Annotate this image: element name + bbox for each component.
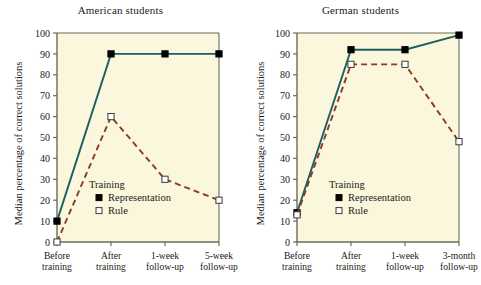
plot-background-american: [57, 33, 219, 242]
x-tick-label-line2-american-1: training: [96, 261, 126, 272]
figure-container: American students Median percentage of c…: [0, 0, 481, 285]
y-tick-label-german-0: 0: [285, 237, 290, 248]
legend-marker-german-1: [336, 208, 342, 214]
y-tick-label-german-70: 70: [280, 90, 290, 101]
y-tick-label-german-30: 30: [280, 174, 290, 185]
legend-label-german-0: Representation: [348, 192, 412, 203]
x-tick-label-american-1: Aftertraining: [96, 250, 126, 272]
legend-label-american-0: Representation: [108, 192, 172, 203]
x-tick-label-line2-german-0: training: [282, 261, 312, 272]
x-tick-label-line2-american-3: follow-up: [200, 261, 238, 272]
data-point-american-1-3: [216, 197, 222, 203]
y-tick-label-american-60: 60: [40, 111, 50, 122]
y-tick-label-american-100: 100: [35, 28, 50, 39]
y-tick-label-american-50: 50: [40, 132, 50, 143]
data-point-american-0-0: [54, 218, 60, 224]
data-point-american-1-2: [162, 176, 168, 182]
y-tick-label-american-0: 0: [45, 237, 50, 248]
chart-panel-german: German students Median percentage of cor…: [240, 0, 481, 285]
legend-label-german-1: Rule: [348, 205, 368, 216]
data-point-american-0-2: [162, 51, 168, 57]
y-tick-label-german-80: 80: [280, 69, 290, 80]
legend-marker-american-0: [96, 195, 102, 201]
chart-panel-american: American students Median percentage of c…: [0, 0, 241, 285]
x-tick-label-line1-german-0: Before: [284, 250, 310, 261]
legend-marker-german-0: [336, 195, 342, 201]
data-point-american-0-3: [216, 51, 222, 57]
data-point-german-0-1: [348, 47, 354, 53]
x-tick-label-american-2: 1-weekfollow-up: [146, 250, 184, 272]
y-tick-label-american-20: 20: [40, 195, 50, 206]
y-tick-label-american-40: 40: [40, 153, 50, 164]
y-tick-label-american-80: 80: [40, 69, 50, 80]
legend-label-american-1: Rule: [108, 205, 128, 216]
x-tick-label-german-2: 1-weekfollow-up: [386, 250, 424, 272]
y-tick-label-german-40: 40: [280, 153, 290, 164]
x-tick-label-line2-american-2: follow-up: [146, 261, 184, 272]
legend-title-american: Training: [89, 179, 126, 190]
data-point-german-0-3: [456, 32, 462, 38]
plot-area-american: 0102030405060708090100BeforetrainingAfte…: [0, 0, 241, 285]
data-point-german-1-1: [348, 61, 354, 67]
plot-area-german: 0102030405060708090100BeforetrainingAfte…: [240, 0, 481, 285]
y-tick-label-german-20: 20: [280, 195, 290, 206]
data-point-german-1-0: [294, 212, 300, 218]
y-tick-label-german-50: 50: [280, 132, 290, 143]
data-point-german-0-2: [402, 47, 408, 53]
x-tick-label-line1-german-2: 1-week: [391, 250, 419, 261]
x-tick-label-line1-german-1: After: [341, 250, 362, 261]
y-tick-label-american-30: 30: [40, 174, 50, 185]
legend-marker-american-1: [96, 208, 102, 214]
y-tick-label-american-90: 90: [40, 49, 50, 60]
x-tick-label-line2-german-3: follow-up: [440, 261, 478, 272]
x-tick-label-german-0: Beforetraining: [282, 250, 312, 272]
x-tick-label-line2-german-1: training: [336, 261, 366, 272]
x-tick-label-american-0: Beforetraining: [42, 250, 72, 272]
legend-title-german: Training: [329, 179, 366, 190]
x-tick-label-line1-american-1: After: [101, 250, 122, 261]
y-tick-label-american-10: 10: [40, 216, 50, 227]
x-tick-label-line1-german-3: 3-month: [443, 250, 476, 261]
data-point-american-1-1: [108, 114, 114, 120]
x-tick-label-line1-american-0: Before: [44, 250, 70, 261]
x-tick-label-german-3: 3-monthfollow-up: [440, 250, 478, 272]
data-point-american-1-0: [54, 239, 60, 245]
y-tick-label-american-70: 70: [40, 90, 50, 101]
data-point-german-1-2: [402, 61, 408, 67]
x-tick-label-line2-german-2: follow-up: [386, 261, 424, 272]
y-tick-label-german-90: 90: [280, 49, 290, 60]
y-tick-label-german-100: 100: [275, 28, 290, 39]
x-tick-label-line2-american-0: training: [42, 261, 72, 272]
x-tick-label-line1-american-2: 1-week: [151, 250, 179, 261]
x-tick-label-line1-american-3: 5-week: [205, 250, 233, 261]
x-tick-label-american-3: 5-weekfollow-up: [200, 250, 238, 272]
data-point-german-1-3: [456, 139, 462, 145]
y-tick-label-german-60: 60: [280, 111, 290, 122]
x-tick-label-german-1: Aftertraining: [336, 250, 366, 272]
data-point-american-0-1: [108, 51, 114, 57]
y-tick-label-german-10: 10: [280, 216, 290, 227]
